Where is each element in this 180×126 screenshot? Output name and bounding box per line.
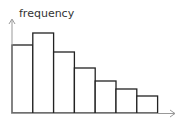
histogram-bar bbox=[12, 45, 33, 113]
histogram-bar bbox=[116, 89, 137, 113]
histogram-bar bbox=[33, 33, 54, 113]
histogram-chart: frequency bbox=[0, 0, 180, 126]
histogram-bar bbox=[54, 52, 75, 113]
histogram-bar bbox=[74, 68, 95, 113]
plot-area bbox=[0, 0, 180, 126]
histogram-bar bbox=[95, 81, 116, 113]
bars-group bbox=[12, 33, 158, 113]
histogram-bar bbox=[137, 96, 158, 113]
